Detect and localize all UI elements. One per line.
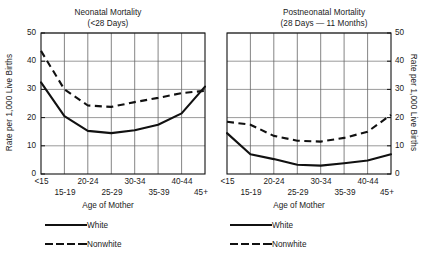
- series-nonwhite-postneonatal: [227, 115, 391, 142]
- legend-line-dashed-icon: [230, 239, 272, 249]
- legend-item-nonwhite: Nonwhite: [230, 237, 307, 251]
- x-axis-label-right: Age of Mother: [191, 201, 407, 210]
- legend-item-white: White: [45, 218, 122, 232]
- legend-line-dashed-icon: [45, 239, 87, 249]
- y-tick-30: 30: [20, 84, 36, 93]
- legend-label-white: White: [87, 221, 108, 230]
- plot-frame: [227, 33, 391, 174]
- x-tick-35-39: 35-39: [143, 188, 175, 197]
- x-tick-20-24: 20-24: [258, 177, 290, 186]
- y-tick-10: 10: [20, 141, 36, 150]
- x-tick-30-34: 30-34: [119, 177, 151, 186]
- legend-right: White Nonwhite: [230, 218, 307, 251]
- y-tick-0: 0: [395, 169, 411, 178]
- x-tick-25-29: 25-29: [282, 188, 314, 197]
- y-tick-50: 50: [20, 28, 36, 37]
- legend-line-solid-icon: [45, 220, 87, 230]
- y-tick-40: 40: [395, 56, 411, 65]
- panel-neonatal: Neonatal Mortality (<28 Days): [0, 0, 216, 257]
- gridlines-vertical: [250, 33, 367, 174]
- x-tick-35-39: 35-39: [329, 188, 361, 197]
- legend-left: White Nonwhite: [45, 218, 122, 251]
- x-tick-45plus: 45+: [188, 188, 214, 197]
- y-tick-30: 30: [395, 84, 411, 93]
- x-tick-30-34: 30-34: [305, 177, 337, 186]
- y-tick-40: 40: [20, 56, 36, 65]
- y-tick-10: 10: [395, 141, 411, 150]
- legend-label-nonwhite: Nonwhite: [87, 240, 122, 249]
- x-tick-40-44: 40-44: [352, 177, 384, 186]
- legend-item-white: White: [230, 218, 307, 232]
- y-axis-label-left: Rate per 1,000 Live Births: [5, 43, 14, 163]
- x-tick-under15: <15: [216, 177, 239, 186]
- y-axis-ticks-postneonatal: [387, 33, 391, 174]
- x-tick-45plus: 45+: [374, 188, 400, 197]
- legend-item-nonwhite: Nonwhite: [45, 237, 122, 251]
- y-tick-50: 50: [395, 28, 411, 37]
- legend-label-white: White: [272, 221, 293, 230]
- x-tick-15-19: 15-19: [235, 188, 267, 197]
- legend-line-solid-icon: [230, 220, 272, 230]
- x-tick-under15: <15: [30, 177, 53, 186]
- mortality-figure: Neonatal Mortality (<28 Days): [0, 0, 433, 257]
- legend-label-nonwhite: Nonwhite: [272, 240, 307, 249]
- y-tick-20: 20: [395, 113, 411, 122]
- y-tick-20: 20: [20, 113, 36, 122]
- series-nonwhite-neonatal: [41, 51, 205, 107]
- x-tick-15-19: 15-19: [49, 188, 81, 197]
- x-tick-20-24: 20-24: [72, 177, 104, 186]
- panel-postneonatal: Postneonatal Mortality (28 Days — 11 Mon…: [216, 0, 432, 257]
- gridlines-horizontal: [227, 33, 391, 146]
- x-tick-40-44: 40-44: [166, 177, 198, 186]
- series-white-postneonatal: [227, 133, 391, 166]
- x-axis-label-left: Age of Mother: [0, 201, 216, 210]
- x-tick-25-29: 25-29: [96, 188, 128, 197]
